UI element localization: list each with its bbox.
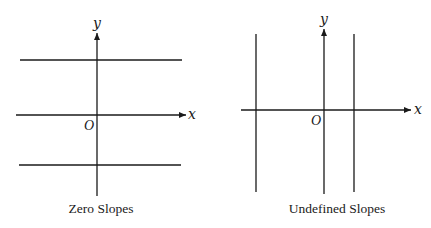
x-axis-label: x bbox=[188, 106, 196, 122]
y-axis-label: y bbox=[92, 15, 102, 31]
origin-label: O bbox=[84, 118, 94, 133]
zero-slopes-diagram: y x O Zero Slopes bbox=[16, 15, 196, 216]
origin-label: O bbox=[311, 113, 321, 128]
y-axis-label: y bbox=[319, 11, 329, 27]
caption-undefined-slopes: Undefined Slopes bbox=[289, 201, 385, 216]
x-axis-label: x bbox=[414, 101, 422, 117]
undefined-slopes-diagram: y x O Undefined Slopes bbox=[241, 11, 422, 216]
caption-zero-slopes: Zero Slopes bbox=[69, 201, 134, 216]
slopes-figure: y x O Zero Slopes y x O Undefined Slopes bbox=[0, 0, 431, 228]
